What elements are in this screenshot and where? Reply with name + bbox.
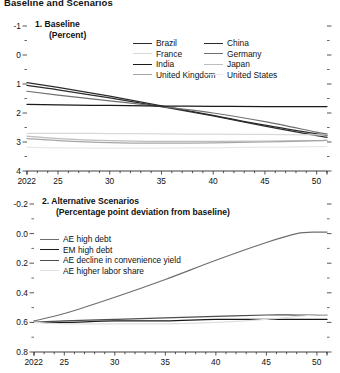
line-series-ae-decline-in-convenience-yield [34, 315, 327, 323]
chart-svg-alternative-scenarios [34, 204, 327, 352]
x-axis-label: 30 [110, 357, 119, 367]
y-axis-label: 0 [0, 50, 21, 60]
x-axis-label: 45 [260, 176, 269, 186]
line-series-united-states [27, 146, 327, 148]
line-series-germany [27, 91, 327, 134]
x-axis-label: 40 [208, 176, 217, 186]
x-axis-label: 2022 [24, 357, 43, 367]
y-axis-label: 0.6 [0, 317, 28, 327]
panel-alternative-scenarios: 2. Alternative Scenarios (Percentage poi… [0, 196, 340, 373]
y-axis-label: 1 [0, 79, 21, 89]
y-axis-label: 2 [0, 108, 21, 118]
chart-svg-baseline [27, 26, 327, 171]
figure-baseline-and-scenarios: Baseline and Scenarios 1. Baseline (Perc… [0, 0, 340, 373]
plot-area-baseline [27, 26, 327, 171]
y-axis-label: -1 [0, 21, 21, 31]
x-axis-label: 25 [60, 357, 69, 367]
panel-baseline: 1. Baseline (Percent) Brazil China Franc… [0, 18, 340, 188]
x-axis-label: 50 [312, 176, 321, 186]
x-axis-label: 30 [105, 176, 114, 186]
y-axis-label: 0.0 [0, 229, 28, 239]
x-axis-label: 50 [312, 357, 321, 367]
y-axis-label: 4 [0, 166, 21, 176]
y-axis-label: 0.8 [0, 347, 28, 357]
y-axis-label: -0.2 [0, 199, 28, 209]
plot-area-alternative-scenarios [34, 204, 327, 352]
x-axis-label: 25 [53, 176, 62, 186]
y-axis-label: 0.4 [0, 288, 28, 298]
y-axis-label: 0.2 [0, 258, 28, 268]
x-axis-label: 35 [157, 176, 166, 186]
line-series-france [27, 133, 327, 134]
x-axis-label: 2022 [17, 176, 36, 186]
x-axis-label: 35 [161, 357, 170, 367]
line-series-china [27, 85, 327, 137]
y-axis-label: 3 [0, 137, 21, 147]
x-axis-label: 45 [262, 357, 271, 367]
line-series-ae-high-debt [34, 232, 327, 321]
figure-title: Baseline and Scenarios [4, 0, 113, 8]
x-axis-label: 40 [211, 357, 220, 367]
line-series-india [27, 104, 327, 106]
